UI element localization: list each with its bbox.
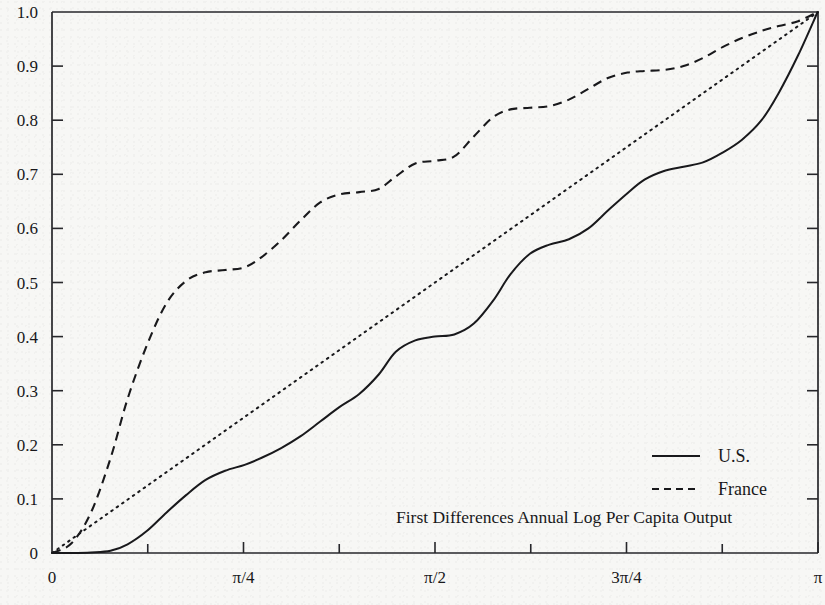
- x-tick-label-0: 0: [48, 568, 57, 587]
- x-tick-label-1: π/4: [233, 568, 255, 587]
- y-tick-label-0: 1.0: [17, 3, 38, 22]
- legend-label-france: France: [718, 479, 767, 499]
- x-tick-label-3: 3π/4: [611, 568, 642, 587]
- figure-panel: 1.00.90.80.70.60.50.40.30.20.10 0π/4π/23…: [0, 0, 825, 605]
- legend-label-us: U.S.: [718, 446, 750, 466]
- y-tick-label-9: 0.1: [17, 490, 38, 509]
- y-tick-label-3: 0.7: [17, 165, 39, 184]
- y-tick-label-6: 0.4: [17, 328, 39, 347]
- y-tick-label-5: 0.5: [17, 274, 38, 293]
- y-tick-label-7: 0.3: [17, 382, 38, 401]
- y-tick-label-8: 0.2: [17, 436, 38, 455]
- x-tick-label-4: π: [814, 568, 823, 587]
- x-tick-label-2: π/2: [424, 568, 446, 587]
- y-tick-label-1: 0.9: [17, 57, 38, 76]
- spectral-distribution-chart: 1.00.90.80.70.60.50.40.30.20.10 0π/4π/23…: [0, 0, 825, 605]
- y-tick-label-2: 0.8: [17, 111, 38, 130]
- y-tick-label-4: 0.6: [17, 219, 38, 238]
- chart-caption: First Differences Annual Log Per Capita …: [396, 507, 732, 527]
- y-tick-label-10: 0: [30, 544, 39, 563]
